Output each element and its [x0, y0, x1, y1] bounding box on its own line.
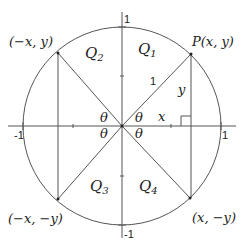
- unit-circle-diagram: 1 -1 -1 1 Q1 Q2 Q3 Q4 P(x, y) (−x, y) (−…: [0, 0, 244, 241]
- theta-q2: θ: [100, 110, 108, 125]
- point-p: [190, 53, 193, 56]
- origin-point: [121, 125, 124, 128]
- x-min-label: -1: [14, 129, 24, 141]
- point-p-label: P(x, y): [191, 34, 234, 49]
- point-q3: [57, 198, 60, 201]
- theta-q4: θ: [135, 126, 143, 141]
- leg-y-label: y: [177, 82, 186, 97]
- leg-x-label: x: [158, 109, 166, 124]
- y-min-label: -1: [124, 228, 134, 240]
- point-q4: [189, 197, 192, 200]
- quadrant-3-label: Q3: [90, 177, 109, 196]
- hypotenuse-label: 1: [150, 75, 156, 87]
- quadrant-4-label: Q4: [139, 177, 158, 196]
- x-max-label: 1: [222, 129, 228, 141]
- right-angle-marker: [181, 116, 191, 126]
- radius-q2: [58, 53, 122, 126]
- point-q4-label: (x, −y): [192, 210, 236, 225]
- quadrant-1-label: Q1: [138, 40, 157, 59]
- point-q2-label: (−x, y): [9, 34, 53, 49]
- point-q2: [57, 52, 60, 55]
- y-max-label: 1: [124, 13, 130, 25]
- point-q3-label: (−x, −y): [8, 211, 63, 226]
- theta-q1: θ: [135, 110, 143, 125]
- theta-q3: θ: [100, 126, 108, 141]
- quadrant-2-label: Q2: [85, 44, 104, 63]
